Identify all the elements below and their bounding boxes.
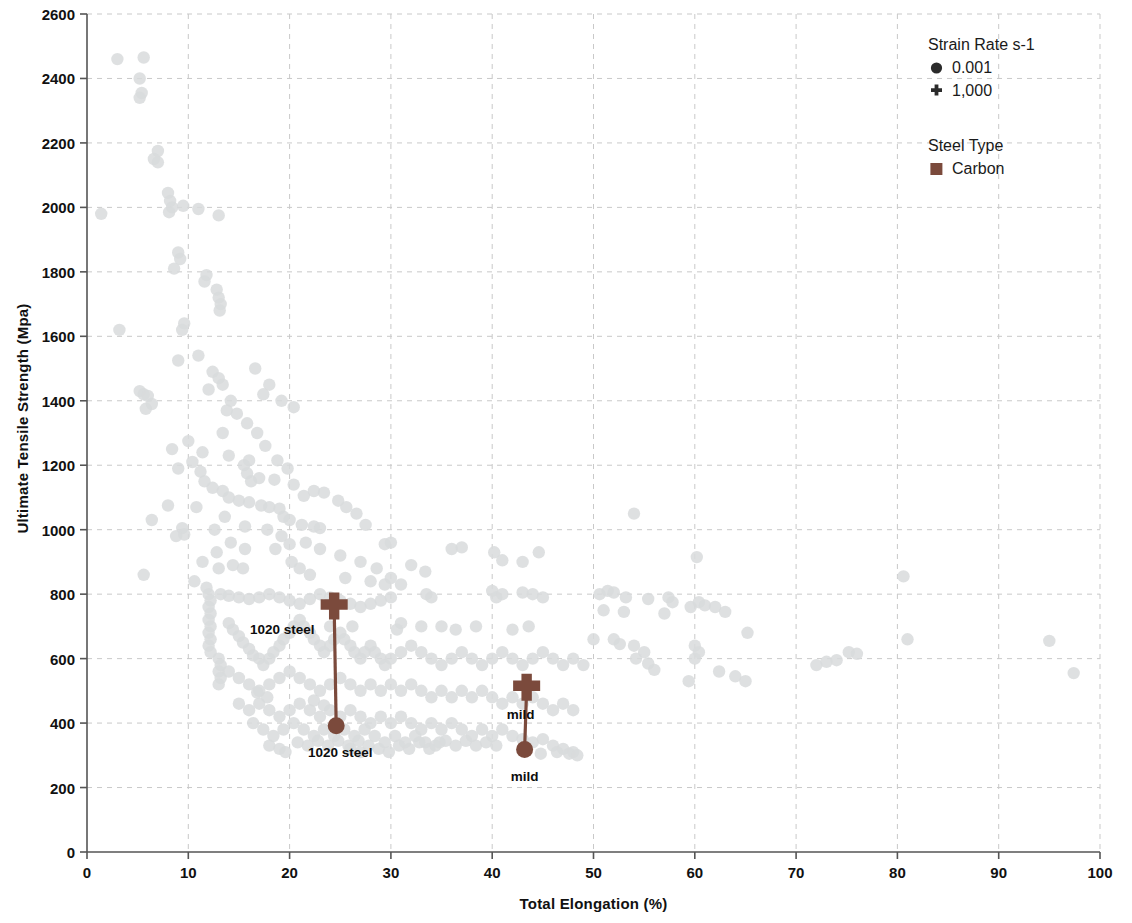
x-tick-label: 50: [564, 864, 624, 881]
y-tick-label: 200: [13, 779, 75, 796]
square-swatch-icon: [928, 160, 945, 177]
legend-item-1000[interactable]: 1,000: [928, 79, 1035, 102]
point-annotation-label: 1020 steel: [250, 622, 315, 637]
legend-label-0-001: 0.001: [952, 59, 992, 77]
x-tick-label: 10: [158, 864, 218, 881]
y-tick-label: 2400: [13, 70, 75, 87]
highlight-point-circle: [328, 717, 345, 734]
point-annotation-label: mild: [507, 707, 535, 722]
y-tick-label: 0: [13, 844, 75, 861]
circle-marker-icon: [928, 59, 945, 76]
y-tick-label: 1600: [13, 328, 75, 345]
point-annotation-label: mild: [511, 768, 539, 783]
y-tick-label: 2200: [13, 134, 75, 151]
legend-strain-rate: Strain Rate s-1 0.001 1,000: [928, 36, 1035, 102]
x-tick-label: 60: [665, 864, 725, 881]
legend-steel-type: Steel Type Carbon: [928, 137, 1004, 180]
y-tick-label: 2600: [13, 6, 75, 23]
scatter-chart: Ultimate Tensile Strength (Mpa) Total El…: [0, 0, 1132, 923]
x-tick-label: 70: [766, 864, 826, 881]
legend-item-0-001[interactable]: 0.001: [928, 56, 1035, 79]
x-tick-label: 30: [361, 864, 421, 881]
x-tick-label: 100: [1070, 864, 1130, 881]
point-annotation-label: 1020 steel: [308, 744, 373, 759]
y-tick-label: 1800: [13, 263, 75, 280]
y-tick-label: 600: [13, 650, 75, 667]
highlight-point-circle: [516, 741, 533, 758]
x-tick-label: 80: [867, 864, 927, 881]
legend-item-carbon[interactable]: Carbon: [928, 157, 1004, 180]
x-axis-title: Total Elongation (%): [87, 895, 1100, 912]
y-tick-label: 1400: [13, 392, 75, 409]
x-tick-label: 0: [57, 864, 117, 881]
x-tick-label: 20: [260, 864, 320, 881]
x-tick-label: 90: [969, 864, 1029, 881]
y-tick-label: 400: [13, 715, 75, 732]
legend-label-carbon: Carbon: [952, 160, 1004, 178]
y-tick-label: 1000: [13, 521, 75, 538]
legend-strain-rate-title: Strain Rate s-1: [928, 36, 1035, 54]
y-tick-label: 800: [13, 586, 75, 603]
x-tick-label: 40: [462, 864, 522, 881]
y-tick-label: 1200: [13, 457, 75, 474]
legend-steel-type-title: Steel Type: [928, 137, 1004, 155]
plus-marker-icon: [928, 82, 945, 99]
legend-label-1000: 1,000: [952, 82, 992, 100]
y-tick-label: 2000: [13, 199, 75, 216]
